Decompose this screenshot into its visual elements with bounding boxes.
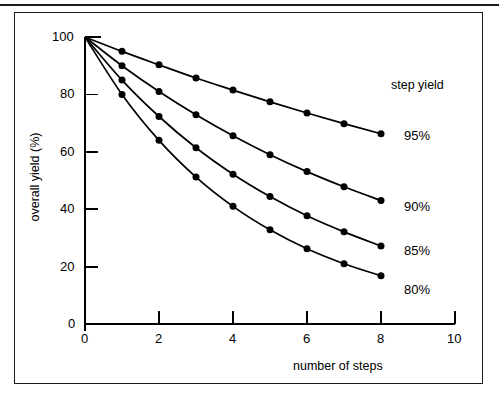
data-point-95pct-n5 (267, 98, 274, 105)
data-point-95pct-n4 (230, 87, 237, 94)
axes-lines (85, 37, 455, 324)
data-point-95pct-n6 (304, 110, 311, 117)
plot-canvas (0, 0, 499, 397)
data-point-90pct-n4 (230, 132, 237, 139)
data-point-90pct-n3 (193, 111, 200, 118)
data-point-95pct-n1 (119, 48, 126, 55)
data-point-85pct-n2 (156, 113, 163, 120)
data-point-90pct-n5 (267, 151, 274, 158)
data-point-95pct-n3 (193, 75, 200, 82)
data-point-90pct-n8 (378, 197, 385, 204)
series-line-85pct (85, 37, 381, 246)
data-point-80pct-n2 (156, 137, 163, 144)
data-point-90pct-n2 (156, 88, 163, 95)
data-point-80pct-n3 (193, 174, 200, 181)
data-point-80pct-n4 (230, 203, 237, 210)
data-point-95pct-n2 (156, 61, 163, 68)
data-point-85pct-n1 (119, 77, 126, 84)
data-point-85pct-n8 (378, 242, 385, 249)
series-line-80pct (85, 37, 381, 276)
data-point-85pct-n3 (193, 144, 200, 151)
series-line-95pct (85, 37, 381, 134)
data-point-95pct-n7 (341, 120, 348, 127)
data-point-90pct-n6 (304, 168, 311, 175)
data-point-85pct-n4 (230, 171, 237, 178)
data-point-80pct-n8 (378, 272, 385, 279)
data-point-85pct-n5 (267, 193, 274, 200)
data-point-90pct-n7 (341, 183, 348, 190)
data-point-85pct-n7 (341, 228, 348, 235)
data-point-85pct-n6 (304, 212, 311, 219)
data-point-80pct-n1 (119, 91, 126, 98)
data-point-95pct-n8 (378, 130, 385, 137)
data-point-90pct-n1 (119, 62, 126, 69)
data-point-80pct-n6 (304, 245, 311, 252)
data-series (85, 37, 385, 279)
axis-ticks (85, 37, 455, 331)
data-point-80pct-n5 (267, 226, 274, 233)
chart-figure: overall yield (%) 100 80 60 40 20 0 0 2 … (0, 0, 499, 397)
data-point-80pct-n7 (341, 260, 348, 267)
